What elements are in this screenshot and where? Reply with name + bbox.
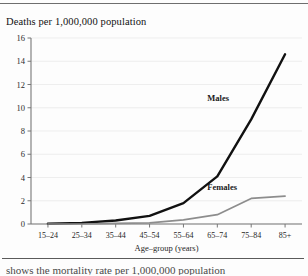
gridlines-group xyxy=(31,38,302,224)
y-tick-label: 2 xyxy=(21,196,25,206)
x-category-label: 35–44 xyxy=(106,231,126,240)
line-chart: 0246810121416 15–2425–3435–4445–5455–646… xyxy=(0,28,308,258)
y-tick-label: 8 xyxy=(21,126,25,136)
x-category-label: 25–34 xyxy=(72,231,92,240)
y-tick-label: 10 xyxy=(17,103,26,113)
y-tick-label: 16 xyxy=(17,33,26,43)
y-tick-label: 12 xyxy=(17,80,26,90)
x-category-label: 75–84 xyxy=(241,231,261,240)
x-category-label: 55–64 xyxy=(173,231,193,240)
x-category-label: 15–24 xyxy=(38,231,58,240)
chart-plot-area: 0246810121416 15–2425–3435–4445–5455–646… xyxy=(0,28,308,258)
x-axis-title: Age–group (years) xyxy=(135,243,199,253)
chart-title: Deaths per 1,000,000 population xyxy=(6,16,146,27)
series-annotation-females: Females xyxy=(207,182,237,192)
page-rule-top xyxy=(0,3,308,4)
y-tick-label: 0 xyxy=(21,219,25,229)
x-axis-category-labels: 15–2425–3435–4445–5455–6465–7475–8485+ xyxy=(38,231,292,240)
y-axis-ticks-group: 0246810121416 xyxy=(17,33,32,229)
data-series-group xyxy=(48,54,285,224)
y-tick-label: 14 xyxy=(17,56,26,66)
y-tick-label: 4 xyxy=(21,173,26,183)
clipped-footer-text: shows the mortality rate per 1,000,000 p… xyxy=(6,264,256,275)
figure-page: Deaths per 1,000,000 population 02468101… xyxy=(0,0,308,276)
x-category-label: 85+ xyxy=(279,231,292,240)
y-tick-label: 6 xyxy=(21,149,25,159)
page-rule-bottom xyxy=(2,258,304,259)
x-category-label: 65–74 xyxy=(207,231,227,240)
series-annotation-males: Males xyxy=(207,93,229,103)
x-category-label: 45–54 xyxy=(140,231,160,240)
